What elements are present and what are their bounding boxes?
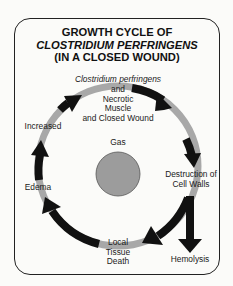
- edema-label: Edema: [20, 183, 56, 193]
- start-label-line: and Closed Wound: [58, 114, 178, 124]
- death-label: Local Tissue Death: [96, 238, 140, 267]
- gas-label: Gas: [98, 138, 138, 148]
- hemolysis-label: Hemolysis: [160, 255, 220, 265]
- increased-label: Increased: [20, 122, 66, 132]
- arrow-death-to-edema-icon: [42, 197, 99, 244]
- death-label-line: Death: [96, 257, 140, 267]
- arrow-edema-to-increased-icon: [31, 140, 49, 180]
- gas-bubble-icon: [96, 152, 140, 196]
- arrow-destruction-to-death-icon: [142, 198, 188, 245]
- destruction-label-line: Cell Walls: [160, 180, 222, 190]
- destruction-label: Destruction of Cell Walls: [160, 170, 222, 189]
- start-label-rest: and Necrotic Muscle and Closed Wound: [58, 85, 178, 123]
